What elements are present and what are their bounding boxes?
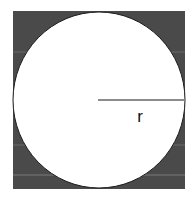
radius-label: r — [137, 107, 143, 126]
inscribed-circle-diagram: r — [0, 0, 193, 200]
